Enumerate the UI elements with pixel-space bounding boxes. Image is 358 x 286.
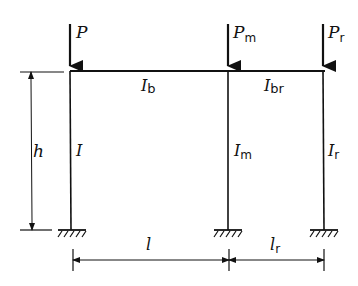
frame-diagram: P Pm Pr Ib Ibr I Im Ir h: [0, 0, 358, 286]
load-label-left: P: [75, 22, 88, 42]
left-span-label: l: [146, 235, 151, 254]
beam-label-left: Ib: [140, 76, 156, 96]
height-label: h: [33, 141, 44, 161]
column-label-left: I: [75, 141, 83, 160]
column-label-right: Ir: [327, 141, 339, 162]
span-dimension: [73, 249, 324, 271]
right-column: [323, 71, 324, 230]
fixed-support-middle-icon: [214, 230, 242, 237]
beam-label-right: Ibr: [263, 76, 285, 96]
fixed-support-left-icon: [58, 230, 86, 237]
right-span-label: lr: [270, 235, 280, 256]
column-label-middle: Im: [233, 141, 252, 162]
fixed-support-right-icon: [310, 230, 338, 237]
load-label-middle: Pm: [232, 22, 256, 45]
load-label-right: Pr: [327, 22, 344, 45]
left-column: [70, 71, 71, 230]
